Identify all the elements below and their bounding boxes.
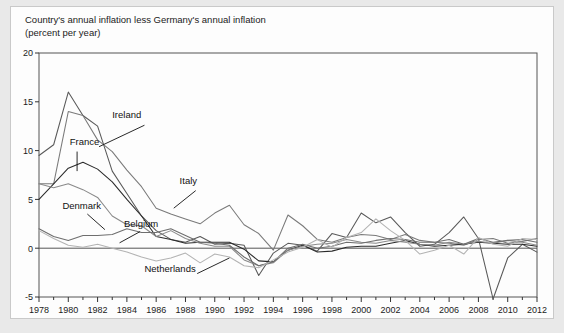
x-axis-tick-label: 1996 [293,305,313,315]
y-axis-tick-label: 5 [28,195,33,205]
series-label-denmark: Denmark [62,200,101,211]
series-label-netherlands: Netherlands [144,263,195,274]
x-axis-tick-label: 2008 [468,305,488,315]
x-axis-tick-label: 2002 [381,305,401,315]
series-label-ireland: Ireland [112,109,141,120]
series-label-belgium: Belgium [124,218,158,229]
leader-line-italy [174,191,196,209]
x-axis-tick-label: 1986 [146,305,166,315]
y-axis-tick-label: -5 [25,292,33,302]
x-axis-tick-label: 1994 [263,305,283,315]
y-axis-tick-label: 0 [28,244,33,254]
series-label-france: France [70,136,100,147]
x-axis-tick-label: 1984 [117,305,137,315]
plot-frame [39,53,537,297]
series-line-belgium [39,229,537,266]
leader-line-ireland [99,125,144,146]
x-axis-tick-label: 1990 [205,305,225,315]
series-label-italy: Italy [180,175,198,186]
leader-line-netherlands [197,258,229,274]
leader-line-denmark [87,214,105,230]
y-axis-tick-label: 15 [23,97,33,107]
series-line-ireland [39,92,537,299]
chart-figure: Country's annual inflation less Germany'… [10,6,554,319]
x-axis-tick-label: 1998 [322,305,342,315]
x-axis-tick-label: 2004 [410,305,430,315]
x-axis-tick-label: 1982 [88,305,108,315]
x-axis-tick-label: 2006 [439,305,459,315]
x-axis-tick-label: 1980 [58,305,78,315]
x-axis-tick-label: 1988 [175,305,195,315]
x-axis-tick-label: 1978 [29,305,49,315]
series-line-france [39,162,537,262]
x-axis-tick-label: 1992 [234,305,254,315]
series-line-italy [39,112,537,251]
x-axis-tick-label: 2000 [351,305,371,315]
x-axis-tick-label: 2012 [527,305,547,315]
x-axis-tick-label: 2010 [498,305,518,315]
y-axis-tick-label: 20 [23,48,33,58]
line-chart-plot: -505101520197819801982198419861988199019… [11,7,555,320]
leader-line-belgium [120,232,141,243]
y-axis-tick-label: 10 [23,146,33,156]
